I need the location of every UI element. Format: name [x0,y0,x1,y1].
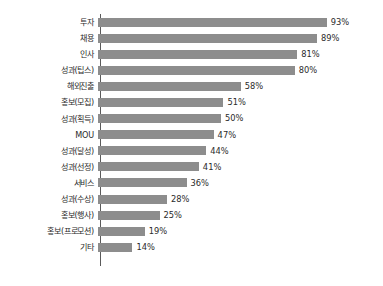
bar-track: 25% [98,207,383,223]
bar [98,162,199,171]
bar [98,18,327,27]
bar [98,195,167,204]
category-label: 홍보(모집) [0,98,98,106]
value-label: 41% [199,163,221,171]
value-label: 14% [132,243,154,251]
value-label: 93% [327,18,349,26]
value-label: 50% [221,114,243,122]
category-label: 기타 [0,243,98,251]
value-label: 80% [295,66,317,74]
bar-row: 홍보(모집)51% [0,94,383,110]
category-label: 성과(수상) [0,195,98,203]
category-label: 성과(선정) [0,163,98,171]
bar-track: 89% [98,30,383,46]
bar-row: 인사81% [0,46,383,62]
bar-row: MOU47% [0,127,383,143]
category-label: 해외진출 [0,82,98,90]
category-label: 성과(달성) [0,147,98,155]
bar [98,66,295,75]
bar [98,227,145,236]
bar [98,98,223,107]
bar-row: 성과(달성)44% [0,143,383,159]
category-label: 성과(팁스) [0,66,98,74]
plot-area: 투자93%채용89%인사81%성과(팁스)80%해외진출58%홍보(모집)51%… [0,14,383,272]
bar [98,82,241,91]
bar-track: 28% [98,191,383,207]
bar [98,243,132,252]
bar-track: 19% [98,223,383,239]
category-label: 홍보(행사) [0,211,98,219]
bar-track: 14% [98,239,383,255]
bar [98,130,214,139]
value-label: 89% [317,34,339,42]
bar-track: 44% [98,143,383,159]
category-label: 성과(획득) [0,115,98,123]
bar [98,114,221,123]
bar [98,34,317,43]
bar-row: 성과(수상)28% [0,191,383,207]
category-label: MOU [0,131,98,139]
value-label: 19% [145,227,167,235]
bar-row: 채용89% [0,30,383,46]
category-label: 투자 [0,18,98,26]
bar-track: 80% [98,62,383,78]
bar-track: 58% [98,78,383,94]
bar-row: 홍보(행사)25% [0,207,383,223]
bar-track: 51% [98,94,383,110]
category-label: 홍보(프로모션) [0,227,98,235]
value-label: 51% [223,98,245,106]
value-label: 81% [297,50,319,58]
bar-track: 41% [98,159,383,175]
bar [98,211,160,220]
value-label: 44% [206,147,228,155]
category-label: 인사 [0,50,98,58]
bar-row: 성과(팁스)80% [0,62,383,78]
bar-row: 기타14% [0,239,383,255]
bar [98,50,297,59]
value-label: 25% [160,211,182,219]
bar-row: 성과(획득)50% [0,111,383,127]
bar [98,178,187,187]
bar-chart: 투자93%채용89%인사81%성과(팁스)80%해외진출58%홍보(모집)51%… [0,0,383,286]
value-label: 58% [241,82,263,90]
category-label: 서비스 [0,179,98,187]
bar-row: 서비스36% [0,175,383,191]
bar-track: 47% [98,127,383,143]
bar-track: 93% [98,14,383,30]
value-label: 47% [214,131,236,139]
bar-track: 36% [98,175,383,191]
bar-track: 50% [98,111,383,127]
bar-row: 성과(선정)41% [0,159,383,175]
bar-track: 81% [98,46,383,62]
bar-row: 해외진출58% [0,78,383,94]
bar [98,146,206,155]
bar-row: 홍보(프로모션)19% [0,223,383,239]
value-label: 28% [167,195,189,203]
bar-row: 투자93% [0,14,383,30]
category-label: 채용 [0,34,98,42]
value-label: 36% [187,179,209,187]
